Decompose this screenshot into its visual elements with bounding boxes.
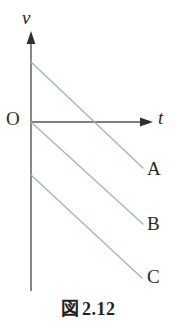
figure-container: v t O A B C 図2.12 [0,0,176,330]
caption-prefix: 図 [61,299,80,319]
t-axis-arrowhead [140,118,153,127]
series-line-b [31,122,143,224]
origin-label: O [6,109,20,128]
t-axis-label: t [158,108,163,127]
series-line-a [31,62,143,168]
series-label-c: C [147,267,160,286]
series-label-b: B [147,214,160,233]
series-line-c [31,175,142,278]
figure-caption: 図2.12 [0,300,176,320]
caption-number: 2.12 [82,299,116,319]
series-label-a: A [147,159,161,178]
v-axis-label: v [22,8,30,27]
v-axis-arrowhead [27,31,36,44]
